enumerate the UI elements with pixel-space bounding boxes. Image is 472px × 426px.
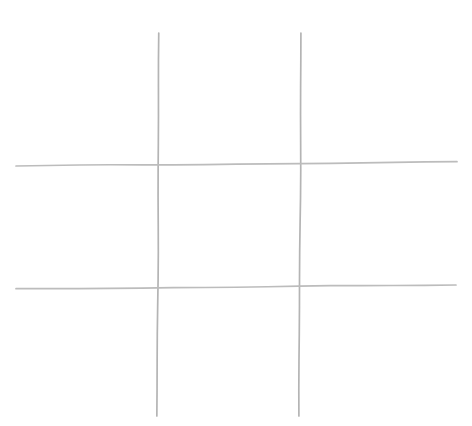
cell-middle-right[interactable] [300,164,457,287]
cell-top-left[interactable] [16,12,158,164]
cell-middle-center[interactable] [158,164,300,287]
cell-top-right[interactable] [300,12,457,164]
cell-bottom-left[interactable] [16,287,158,416]
cell-top-center[interactable] [158,12,300,164]
cell-bottom-right[interactable] [300,287,457,416]
cell-middle-left[interactable] [16,164,158,287]
cell-bottom-center[interactable] [158,287,300,416]
tic-tac-toe-board: Tic Tac Toe Grid [0,0,472,426]
